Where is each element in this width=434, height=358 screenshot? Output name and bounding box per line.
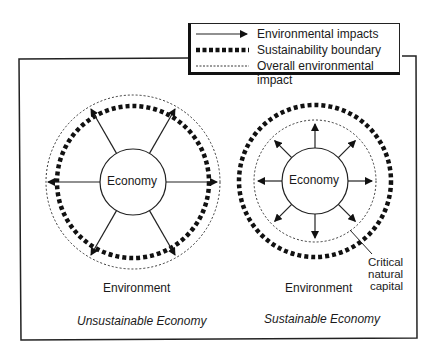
outer-frame xyxy=(19,56,417,340)
annotation-line-3: capital xyxy=(368,280,403,292)
legend-label-sustainability-boundary: Sustainability boundary xyxy=(257,43,381,57)
annotation-line-2: natural xyxy=(368,268,403,280)
left-environment-label: Environment xyxy=(103,281,170,295)
left-diagram-title: Unsustainable Economy xyxy=(77,314,206,328)
annotation-line-1: Critical xyxy=(368,256,403,268)
left-economy-label: Economy xyxy=(107,174,157,188)
critical-natural-capital-annotation: Critical natural capital xyxy=(368,256,403,292)
right-economy-label: Economy xyxy=(289,173,339,187)
right-diagram-title: Sustainable Economy xyxy=(264,312,380,326)
legend-label-environmental-impacts: Environmental impacts xyxy=(257,27,378,41)
legend: Environmental impacts Sustainability bou… xyxy=(188,23,400,75)
right-environment-label: Environment xyxy=(285,281,352,295)
legend-label-overall-environmental-impact: Overall environmental impact xyxy=(257,59,399,87)
